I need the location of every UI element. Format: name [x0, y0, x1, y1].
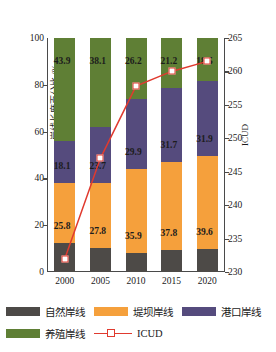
x-tick-label: 2005: [80, 276, 120, 286]
icud-marker-layer: [47, 38, 225, 272]
secondary-y-tick-mark: [225, 71, 229, 72]
legend-row-secondary: 养殖岸线ICUD: [6, 322, 270, 344]
secondary-y-tick-mark: [225, 172, 229, 173]
secondary-y-tick-mark: [225, 272, 229, 273]
y-tick-mark: [43, 225, 47, 226]
icud-data-marker[interactable]: [97, 155, 104, 162]
secondary-y-tick-mark: [225, 239, 229, 240]
secondary-y-axis-ticks: 265260255250245240235230: [228, 38, 274, 272]
x-tick-label: 2010: [116, 276, 156, 286]
chart-legend: 自然岸线堤坝岸线港口岸线 养殖岸线ICUD: [6, 300, 270, 344]
legend-label: 养殖岸线: [45, 326, 85, 341]
icud-data-marker[interactable]: [168, 68, 175, 75]
legend-item[interactable]: 堤坝岸线: [94, 304, 173, 319]
y-tick-label: 100: [17, 33, 44, 43]
legend-label: ICUD: [137, 328, 163, 339]
y-tick-mark: [43, 132, 47, 133]
icud-data-marker[interactable]: [133, 83, 140, 90]
legend-label: 自然岸线: [45, 304, 85, 319]
y-tick-mark: [43, 85, 47, 86]
y-tick-label: 20: [17, 220, 44, 230]
legend-color-swatch: [6, 329, 40, 338]
icud-data-marker[interactable]: [61, 255, 68, 262]
secondary-y-tick-mark: [225, 138, 229, 139]
y-tick-label: 0: [17, 267, 44, 277]
x-tick-label: 2000: [45, 276, 85, 286]
secondary-y-tick-label: 245: [228, 167, 274, 177]
secondary-y-tick-label: 240: [228, 200, 274, 210]
legend-item[interactable]: 自然岸线: [6, 304, 85, 319]
secondary-y-tick-label: 255: [228, 100, 274, 110]
secondary-y-tick-label: 265: [228, 33, 274, 43]
secondary-y-tick-mark: [225, 38, 229, 39]
stacked-bar-chart: 岸线长度百分比 /% ICUD 100806040200 26526025525…: [0, 0, 276, 352]
legend-label: 港口岸线: [221, 304, 261, 319]
legend-item[interactable]: 港口岸线: [182, 304, 261, 319]
legend-row-primary: 自然岸线堤坝岸线港口岸线: [6, 300, 270, 322]
x-tick-label: 2020: [187, 276, 227, 286]
y-tick-mark: [43, 178, 47, 179]
x-tick-label: 2015: [152, 276, 192, 286]
secondary-y-tick-mark: [225, 105, 229, 106]
legend-line-marker-icon: [94, 328, 132, 339]
secondary-y-tick-label: 260: [228, 66, 274, 76]
y-tick-label: 60: [17, 127, 44, 137]
secondary-y-tick-label: 250: [228, 133, 274, 143]
icud-data-marker[interactable]: [204, 58, 211, 65]
secondary-y-tick-label: 235: [228, 234, 274, 244]
legend-color-swatch: [6, 307, 40, 316]
legend-color-swatch: [94, 307, 128, 316]
legend-color-swatch: [182, 307, 216, 316]
legend-label: 堤坝岸线: [133, 304, 173, 319]
legend-item[interactable]: 养殖岸线: [6, 326, 85, 341]
secondary-y-tick-mark: [225, 205, 229, 206]
secondary-y-tick-label: 230: [228, 267, 274, 277]
legend-item[interactable]: ICUD: [94, 328, 163, 339]
y-axis-ticks: 100806040200: [14, 38, 44, 272]
x-axis-ticks: 20002005201020152020: [47, 276, 225, 292]
y-tick-label: 40: [17, 173, 44, 183]
y-tick-label: 80: [17, 80, 44, 90]
